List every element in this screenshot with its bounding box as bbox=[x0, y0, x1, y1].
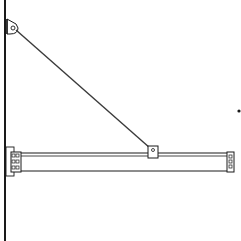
bolt-icon bbox=[16, 154, 19, 157]
bolt-icon bbox=[16, 160, 19, 163]
beam-end-cap bbox=[227, 152, 234, 172]
tie-rod bbox=[16, 30, 150, 148]
pin-icon bbox=[11, 26, 15, 30]
bolt-icon bbox=[229, 165, 232, 168]
stray-dot bbox=[237, 109, 240, 112]
beam-wall-mount bbox=[6, 147, 21, 176]
upper-wall-bracket bbox=[7, 19, 18, 34]
bolt-icon bbox=[229, 155, 232, 158]
bracket-diagram bbox=[0, 0, 241, 241]
bolt-icon bbox=[12, 154, 15, 157]
horizontal-beam bbox=[20, 153, 230, 171]
bolt-icon bbox=[12, 160, 15, 163]
bolt-icon bbox=[16, 166, 19, 169]
bolt-icon bbox=[12, 166, 15, 169]
bolt-icon bbox=[229, 160, 232, 163]
bolt-icon bbox=[152, 149, 155, 152]
rod-beam-clamp bbox=[148, 146, 158, 158]
